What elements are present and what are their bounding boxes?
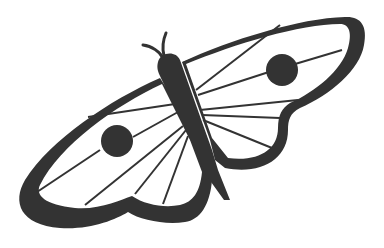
antenna-right (163, 33, 166, 56)
moth-drawing (0, 0, 384, 248)
left-eyespot (101, 125, 133, 157)
moth-illustration: moth (0, 0, 384, 248)
right-eyespot (266, 54, 298, 86)
antenna-left (143, 45, 163, 58)
